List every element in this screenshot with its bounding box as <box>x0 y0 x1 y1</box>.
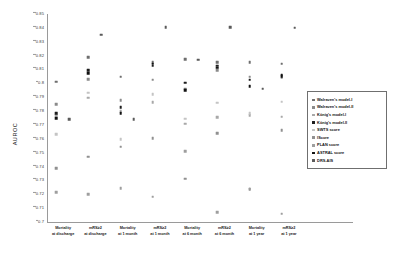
y-axis-tick-label: 0.71 <box>36 206 47 210</box>
data-point <box>87 56 90 59</box>
legend-marker-icon <box>312 159 315 162</box>
data-point <box>152 195 155 198</box>
data-point <box>152 79 155 82</box>
data-point <box>216 116 219 119</box>
y-axis-title: AUROC <box>12 122 18 145</box>
legend-item[interactable]: König's model-II <box>312 119 383 127</box>
data-point <box>216 66 219 69</box>
data-point <box>55 80 58 83</box>
data-point <box>87 72 90 75</box>
data-point <box>184 118 187 121</box>
category-label-line1: mRS≥2 <box>281 226 296 232</box>
data-point <box>184 177 187 180</box>
data-point <box>55 191 58 194</box>
data-point <box>184 58 187 61</box>
x-axis-category-label: mRS≥2at 1 year <box>281 226 296 237</box>
legend-item[interactable]: König's model-I <box>312 111 383 119</box>
y-axis-tick-label: 0.79 <box>36 95 47 99</box>
category-label-line2: at 1 year <box>249 232 265 238</box>
y-axis-tick-label: 0.74 <box>36 164 47 168</box>
data-point <box>229 26 232 29</box>
data-point <box>132 118 135 121</box>
data-point <box>184 89 187 92</box>
data-point <box>294 27 297 30</box>
category-label-line2: at discharge <box>52 232 74 238</box>
y-axis-tick-label: 0.73 <box>36 178 47 182</box>
y-axis-tick-label: 0.84 <box>36 26 47 30</box>
legend-label: Walraven's model-I <box>317 98 352 102</box>
y-axis-tick-label: 0.82 <box>36 54 47 58</box>
data-point <box>68 118 71 121</box>
data-point <box>281 129 284 132</box>
x-axis-category-label: Mortalityat discharge <box>52 226 74 237</box>
legend-marker-icon <box>312 114 315 117</box>
data-point <box>248 187 251 190</box>
data-point <box>152 93 155 96</box>
data-point <box>248 112 251 115</box>
x-axis-category-label: Mortalityat 1 year <box>249 226 265 237</box>
y-axis-tick-label: 0.85 <box>36 12 47 16</box>
auroc-scatter-chart: AUROC 0.850.840.830.820.810.80.790.780.7… <box>0 0 393 267</box>
category-label-line2: at 1 month <box>150 232 169 238</box>
data-point <box>152 62 155 65</box>
x-axis-category-label: mRS≥2at 1 month <box>150 226 169 237</box>
y-axis-tick-label: 0.75 <box>36 151 47 155</box>
data-point <box>216 211 219 214</box>
data-point <box>119 138 122 141</box>
data-point <box>184 150 187 153</box>
data-point <box>248 85 251 88</box>
legend-label: ASTRAL score <box>317 151 344 155</box>
legend-item[interactable]: ASTRAL score <box>312 149 383 157</box>
x-axis-category-label: mRS≥2at discharge <box>84 226 106 237</box>
legend-label: IScore <box>317 136 329 140</box>
category-label-line2: at 6 month <box>215 232 234 238</box>
y-axis-tick-label: 0.78 <box>36 109 47 113</box>
y-axis-tick-label: 0.8 <box>38 81 47 85</box>
x-axis-line <box>47 222 353 223</box>
x-axis-category-label: mRS≥2at 6 month <box>215 226 234 237</box>
legend-label: Walraven's model-II <box>317 105 353 109</box>
legend-marker-icon <box>312 106 315 109</box>
data-point <box>119 187 122 190</box>
data-point <box>152 101 155 104</box>
data-point <box>119 106 122 109</box>
legend-label: DRS-AIS <box>317 159 333 163</box>
legend-label: König's model-II <box>317 121 347 125</box>
data-point <box>87 193 90 196</box>
x-axis-category-label: Mortalityat 1 month <box>118 226 137 237</box>
y-axis-tick-label: 0.76 <box>36 137 47 141</box>
legend-item[interactable]: Walraven's model-I <box>312 96 383 104</box>
y-axis-tick-label: 0.83 <box>36 40 47 44</box>
category-label-line1: Mortality <box>52 226 74 232</box>
data-point <box>119 112 122 115</box>
legend-item[interactable]: IScore <box>312 134 383 142</box>
legend-marker-icon <box>312 121 315 124</box>
data-point <box>261 87 264 90</box>
data-point <box>55 167 58 170</box>
plot-area: 0.850.840.830.820.810.80.790.780.770.760… <box>47 14 305 222</box>
legend-marker-icon <box>312 152 315 155</box>
data-point <box>119 75 122 78</box>
y-axis-tick-label: 0.81 <box>36 67 47 71</box>
legend-marker-icon <box>312 129 315 132</box>
data-point <box>87 78 90 81</box>
data-point <box>216 132 219 135</box>
data-point <box>184 81 187 84</box>
data-point <box>281 62 284 65</box>
data-point <box>119 145 122 148</box>
data-point <box>87 96 90 99</box>
legend-item[interactable]: Walraven's model-II <box>312 104 383 112</box>
data-point <box>55 112 58 115</box>
legend-marker-icon <box>312 144 315 147</box>
data-point <box>216 101 219 104</box>
x-axis-category-label: Mortalityat 6 month <box>183 226 202 237</box>
legend-item[interactable]: PLAN score <box>312 142 383 150</box>
legend-item[interactable]: SWTS score <box>312 126 383 134</box>
legend-label: König's model-I <box>317 113 346 117</box>
chart-legend: Walraven's model-IWalraven's model-IIKön… <box>307 91 387 169</box>
data-point <box>281 115 284 118</box>
data-point <box>281 75 284 78</box>
data-point <box>55 103 58 106</box>
legend-item[interactable]: DRS-AIS <box>312 157 383 165</box>
category-label-line1: Mortality <box>183 226 202 232</box>
